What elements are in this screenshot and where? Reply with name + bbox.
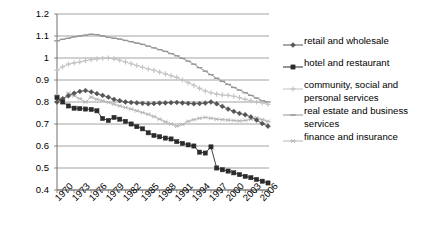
y-tick-label: 0.6	[19, 141, 49, 151]
data-point	[175, 140, 179, 144]
data-point	[146, 112, 151, 116]
data-point	[134, 109, 139, 113]
data-point	[225, 93, 230, 98]
data-point	[237, 111, 242, 116]
data-point	[191, 118, 196, 122]
legend-item[interactable]: retail and wholesale	[282, 36, 423, 49]
data-point	[203, 88, 208, 93]
data-point	[265, 119, 270, 123]
data-point	[220, 104, 225, 109]
legend-marker-icon	[282, 133, 304, 145]
data-point	[72, 106, 76, 110]
data-point	[203, 101, 208, 106]
data-point	[208, 90, 213, 95]
data-point	[106, 101, 111, 105]
data-point	[291, 43, 296, 48]
data-point	[66, 104, 70, 108]
data-point	[197, 86, 202, 91]
data-point	[83, 58, 88, 63]
legend-label: finance and insurance	[304, 132, 398, 143]
data-point	[260, 121, 265, 126]
y-tick-label: 0.8	[19, 97, 49, 107]
data-point	[117, 104, 122, 108]
data-point	[77, 59, 82, 64]
legend-label: retail and wholesale	[304, 36, 389, 47]
chart-figure: 1.21.110.90.80.70.60.50.4 19701973197619…	[0, 0, 423, 240]
data-point	[180, 77, 185, 82]
data-point	[129, 61, 134, 66]
legend-label: real estate and business	[304, 106, 408, 117]
data-point	[94, 97, 99, 101]
data-point	[112, 97, 117, 102]
data-point	[254, 99, 259, 104]
legend-item[interactable]: hotel and restaurant	[282, 58, 423, 71]
y-tick-label: 0.5	[19, 163, 49, 173]
data-point	[209, 100, 214, 105]
legend-marker-icon	[282, 59, 304, 71]
data-point	[151, 68, 156, 73]
data-point	[95, 109, 99, 113]
data-point	[231, 119, 236, 123]
data-point	[237, 119, 242, 123]
data-point	[291, 65, 295, 69]
legend-item[interactable]: finance and insurance	[282, 132, 423, 145]
y-tick-label: 1	[19, 53, 49, 63]
legend-marker-icon	[282, 107, 304, 119]
data-point	[135, 125, 139, 129]
data-point	[203, 116, 208, 120]
legend-label: services	[304, 119, 339, 130]
data-point	[180, 141, 184, 145]
data-point	[83, 88, 88, 93]
data-point	[248, 98, 253, 103]
data-point	[83, 100, 88, 104]
data-point	[158, 135, 162, 139]
data-point	[174, 75, 179, 80]
data-point	[83, 107, 87, 111]
data-point	[197, 150, 201, 154]
legend-marker-icon	[282, 37, 304, 49]
data-point	[123, 119, 127, 123]
legend-marker-icon	[282, 81, 304, 93]
data-point	[129, 100, 134, 105]
data-point	[77, 97, 82, 101]
data-point	[111, 56, 116, 61]
data-point	[151, 115, 156, 119]
data-point	[140, 111, 145, 115]
data-point	[226, 169, 230, 173]
legend-item[interactable]: real estate and business	[282, 106, 423, 119]
data-point	[243, 112, 248, 117]
y-tick-label: 1.2	[19, 9, 49, 19]
data-point	[209, 145, 213, 149]
data-point	[146, 66, 151, 71]
data-point	[220, 168, 224, 172]
data-point	[243, 97, 248, 102]
data-point	[220, 118, 225, 122]
data-point	[168, 122, 173, 126]
data-point	[123, 100, 128, 105]
data-point	[134, 63, 139, 68]
data-point	[112, 115, 116, 119]
data-point	[186, 80, 191, 85]
data-point	[203, 151, 207, 155]
series-line	[57, 98, 268, 183]
data-point	[123, 106, 128, 110]
data-point	[152, 133, 156, 137]
data-point	[191, 83, 196, 88]
data-point	[101, 116, 105, 120]
data-point	[60, 64, 65, 69]
data-point	[186, 119, 191, 123]
data-point	[89, 95, 94, 99]
data-point	[140, 65, 145, 70]
data-point	[95, 91, 100, 96]
data-point	[237, 95, 242, 100]
data-point	[266, 124, 271, 129]
y-tick-label: 0.9	[19, 75, 49, 85]
data-point	[220, 92, 225, 97]
data-point	[106, 55, 111, 60]
data-point	[106, 95, 111, 100]
data-point	[168, 73, 173, 78]
data-point	[237, 173, 241, 177]
data-point	[66, 62, 71, 67]
data-point	[163, 71, 168, 76]
data-point	[180, 123, 185, 127]
